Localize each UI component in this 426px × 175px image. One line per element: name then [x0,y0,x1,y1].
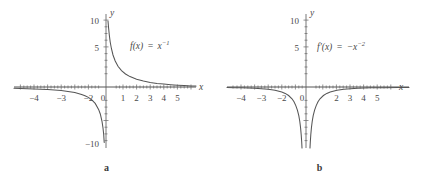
x-tick-label-5: 5 [175,93,180,103]
x-tick-label-0: 0 [300,93,305,103]
curve-positive-branch [108,21,196,86]
panel-caption-b: b [213,162,426,173]
x-tick-label-3: 3 [348,93,353,103]
panel-caption-a: a [0,162,213,173]
x-tick-label-5: 5 [375,93,380,103]
x-tick-label-1: 1 [121,93,126,103]
x-tick-label-neg3: −3 [257,93,267,103]
y-tick-label-neg10: −10 [85,139,100,149]
function-label-b: f′(x)=−x−2 [317,40,366,53]
panel-a: 10 5 −10 −4 −3 −2 0 1 2 3 4 5 y x f(x)=x… [0,0,213,175]
fn-exponent: −1 [162,39,170,46]
panel-b: 10 5 −4 −3 −2 0 2 3 4 5 y x f′(x)=−x−2 b [213,0,426,175]
x-tick-label-neg4: −4 [29,93,39,103]
x-tick-label-4: 4 [361,93,366,103]
svg-text:f′(x)=−x−2: f′(x)=−x−2 [317,40,366,53]
plot-a: 10 5 −10 −4 −3 −2 0 1 2 3 4 5 y x f(x)=x… [0,0,213,160]
x-axis-label: x [398,82,404,92]
x-tick-label-4: 4 [162,93,167,103]
fn-arg: (x) [133,41,144,52]
x-tick-label-neg2: −2 [277,93,287,103]
y-tick-label-10: 10 [290,16,300,26]
fn-exponent: −2 [357,40,365,47]
x-tick-label-neg4: −4 [236,93,246,103]
fn-equals: = [336,42,342,52]
x-tick-label-neg2: −2 [84,93,94,103]
y-tick-label-10: 10 [90,16,100,26]
x-tick-label-neg3: −3 [56,93,66,103]
plot-b: 10 5 −4 −3 −2 0 2 3 4 5 y x f′(x)=−x−2 [213,0,426,160]
curve-right-branch [310,88,409,148]
y-axis-label: y [309,8,315,18]
y-tick-label-5: 5 [295,43,300,53]
y-axis-label: y [109,8,115,18]
figure-row: 10 5 −10 −4 −3 −2 0 1 2 3 4 5 y x f(x)=x… [0,0,426,175]
x-axis-label: x [198,82,204,92]
function-label-a: f(x)=x−1 [130,39,169,52]
fn-arg: (x) [322,42,333,53]
y-tick-label-5: 5 [95,43,100,53]
x-tick-label-3: 3 [148,93,153,103]
fn-equals: = [147,41,153,51]
x-tick-label-2: 2 [134,93,139,103]
x-tick-label-2: 2 [334,93,339,103]
svg-text:f(x)=x−1: f(x)=x−1 [130,39,169,52]
x-tick-label-0: 0 [101,93,106,103]
